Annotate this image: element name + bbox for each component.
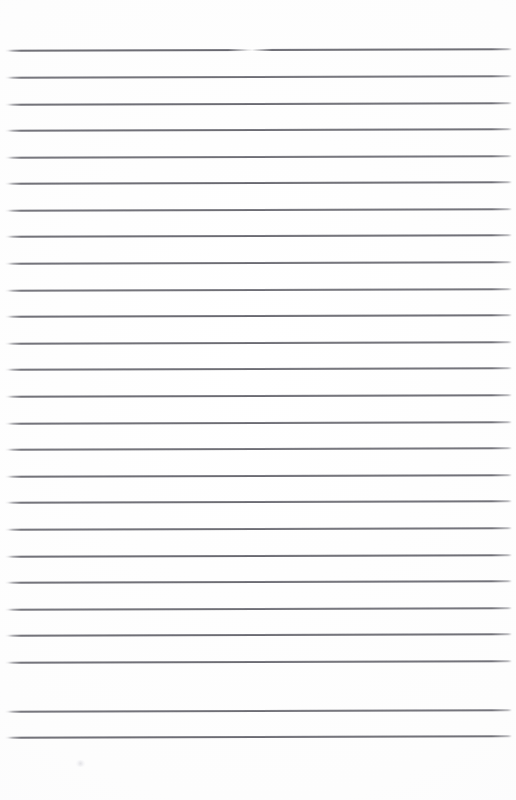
ruled-line (5, 660, 512, 663)
ruled-line (5, 261, 512, 264)
ruled-line-halo (5, 261, 512, 263)
ruled-line (5, 421, 512, 424)
ruled-line (5, 234, 512, 237)
ruled-line-halo (5, 314, 512, 316)
ruled-line (5, 48, 512, 51)
ruled-line (5, 607, 512, 610)
ruled-line-halo (5, 527, 512, 529)
ruled-line (5, 208, 512, 211)
ruled-lines-layer (0, 0, 516, 800)
ruled-line-halo (5, 181, 512, 183)
ruled-line-halo (5, 447, 512, 449)
ruled-line (5, 75, 512, 78)
ruled-line (5, 633, 512, 636)
ruled-line (5, 314, 512, 317)
ruled-line-halo (5, 367, 512, 369)
ruled-line-halo (5, 500, 512, 502)
scan-smudge-artifact (76, 760, 85, 767)
ruled-line (5, 580, 512, 583)
scanned-page (0, 0, 516, 800)
ruled-line-halo (5, 421, 512, 423)
ruled-line-halo (5, 394, 512, 396)
ruled-line (5, 527, 512, 530)
ruled-line-halo (5, 660, 512, 662)
ruled-line-halo (5, 474, 512, 476)
ruled-line (5, 394, 512, 397)
ruled-line-halo (5, 128, 512, 130)
bottom-margin-area (0, 738, 516, 800)
ruled-line-halo (5, 341, 512, 343)
ruled-line-halo (5, 633, 512, 635)
ruled-line (5, 102, 512, 105)
ruled-line-halo (5, 580, 512, 582)
ruled-line (5, 341, 512, 344)
ruled-line-halo (5, 234, 512, 236)
ruled-line (5, 155, 512, 158)
ruled-line (5, 447, 512, 450)
ruled-line (5, 181, 512, 184)
ruled-line (5, 288, 512, 291)
ruled-line (5, 709, 512, 712)
ruled-line-halo (5, 48, 512, 50)
ruled-line (5, 367, 512, 370)
ruled-line-halo (5, 709, 512, 711)
ruled-line-halo (5, 208, 512, 210)
ruled-line-halo (5, 102, 512, 104)
ruled-line-halo (5, 155, 512, 157)
ruled-line (5, 474, 512, 477)
ruled-line-halo (5, 607, 512, 609)
ruled-line-halo (5, 554, 512, 556)
ruled-line (5, 554, 512, 557)
ruled-line (5, 500, 512, 503)
ruled-line-halo (5, 288, 512, 290)
ruled-line-halo (5, 75, 512, 77)
ruled-line (5, 128, 512, 131)
